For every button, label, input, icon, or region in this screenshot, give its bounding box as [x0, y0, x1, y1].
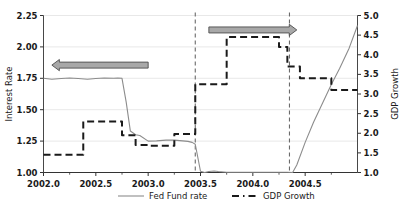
y2-tick-label-2.5: 2.5	[364, 109, 379, 119]
x-tick-label-2003.0: 2003.0	[132, 179, 165, 189]
y2-tick-label-2.0: 2.0	[364, 128, 379, 138]
y2-tick-label-1.5: 1.5	[364, 148, 379, 158]
y2-tick-label-1.0: 1.0	[364, 168, 379, 178]
y2-tick-label-4.5: 4.5	[364, 30, 379, 40]
x-tick-label-2002.0: 2002.0	[27, 179, 60, 189]
chart-container: 2002.02002.52003.02003.52004.02004.5 1.0…	[0, 0, 408, 214]
x-tick-label-2002.5: 2002.5	[79, 179, 112, 189]
y-tick-label-2.00: 2.00	[17, 42, 38, 52]
y2-tick-label-5.0: 5.0	[364, 11, 379, 21]
y2-tick-label-3.5: 3.5	[364, 69, 379, 79]
legend-label-gdp-growth: GDP Growth	[263, 191, 315, 201]
y-tick-label-1.50: 1.50	[17, 105, 38, 115]
y-tick-label-2.25: 2.25	[17, 11, 38, 21]
y-tick-label-1.00: 1.00	[17, 168, 38, 178]
y-tick-label-1.25: 1.25	[17, 136, 38, 146]
x-tick-label-2004.0: 2004.0	[236, 179, 269, 189]
y-axis-right-title: GDP Growth	[390, 68, 400, 120]
legend-label-fed-fund-rate: Fed Fund rate	[149, 191, 207, 201]
y2-tick-label-4.0: 4.0	[364, 50, 379, 60]
dual-axis-line-chart: 2002.02002.52003.02003.52004.02004.5 1.0…	[0, 0, 408, 214]
y2-tick-label-3.0: 3.0	[364, 89, 379, 99]
y-tick-label-1.75: 1.75	[17, 73, 38, 83]
x-tick-label-2003.5: 2003.5	[184, 179, 217, 189]
y-axis-left-title: Interest Rate	[4, 67, 14, 122]
x-tick-label-2004.5: 2004.5	[289, 179, 322, 189]
